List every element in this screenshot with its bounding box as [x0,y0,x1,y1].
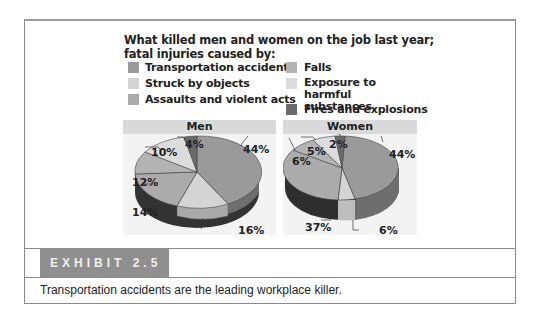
men-label-assaults: 14% [132,206,158,219]
men-label-falls: 12% [132,176,158,189]
legend-swatch-struck [128,78,139,89]
men-label-fires: 4% [185,138,204,151]
women-chart-title: Women [283,120,417,134]
legend-swatch-exposure [286,78,297,89]
women-label-struck: 6% [379,224,398,237]
legend-label-transportation: Transportation accidents [145,62,295,74]
chart-title: What killed men and women on the job las… [124,33,444,61]
women-label-assaults: 37% [305,221,331,234]
women-label-fires: 2% [329,138,348,151]
legend-label-assaults: Assaults and violent acts [145,94,296,106]
women-label-transportation: 44% [389,148,415,161]
men-label-exposure: 10% [151,146,177,159]
exhibit-caption: Transportation accidents are the leading… [40,283,342,297]
men-chart-title: Men [123,120,276,134]
legend-swatch-assaults [128,94,139,105]
men-label-struck: 16% [238,224,264,237]
men-label-transportation: 44% [243,143,269,156]
legend-swatch-fires [286,104,297,115]
legend-swatch-transportation [128,62,139,73]
legend-swatch-falls [286,62,297,73]
exhibit-label: EXHIBIT 2.5 [40,249,169,277]
legend-label-falls: Falls [304,62,331,74]
exhibit-divider-bottom [24,277,516,278]
women-label-exposure: 5% [307,145,326,158]
legend-label-fires: Fires and explosions [304,104,428,116]
legend-label-struck: Struck by objects [145,78,250,90]
